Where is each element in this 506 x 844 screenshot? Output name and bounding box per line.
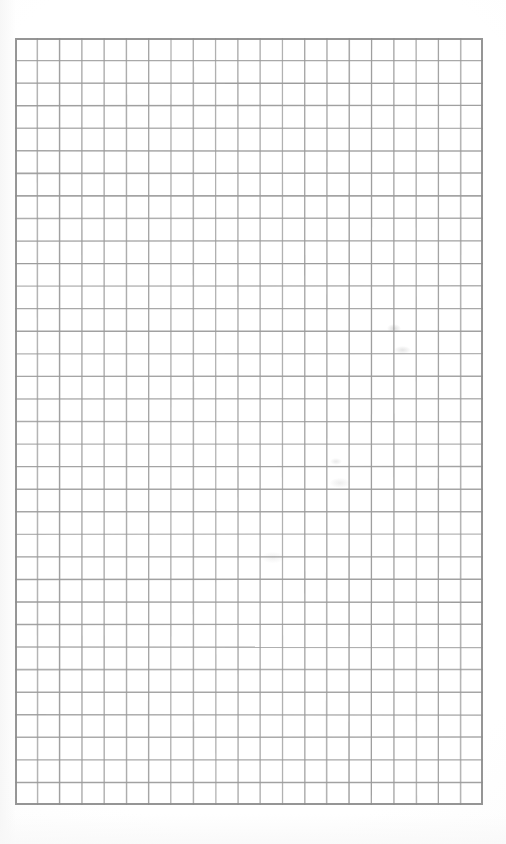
grid-paper-area [15, 38, 483, 805]
scan-edge-shading-left [0, 0, 16, 844]
scan-edge-shading-bottom [0, 814, 506, 844]
grid-lines-svg [15, 38, 483, 805]
scanned-page [0, 0, 506, 844]
